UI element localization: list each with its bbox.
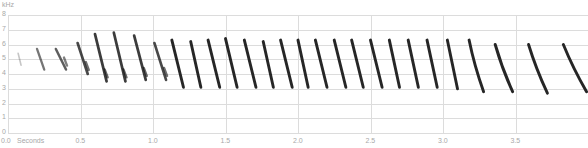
x-tick-label: 1.5 bbox=[221, 137, 231, 145]
note bbox=[469, 40, 484, 92]
note bbox=[172, 40, 184, 87]
note bbox=[427, 40, 437, 87]
note bbox=[298, 40, 308, 87]
x-tick-label: 2.0 bbox=[293, 137, 303, 145]
note bbox=[371, 40, 383, 87]
x-tick-label: 2.5 bbox=[366, 137, 376, 145]
spectrogram-plot bbox=[0, 0, 588, 148]
note bbox=[408, 40, 418, 87]
note bbox=[529, 45, 548, 94]
y-tick-label: 5 bbox=[2, 54, 6, 62]
note bbox=[244, 40, 256, 87]
note bbox=[389, 40, 399, 87]
x-tick-label: 3.0 bbox=[438, 137, 448, 145]
x-tick-label: 3.5 bbox=[511, 137, 521, 145]
note bbox=[495, 45, 512, 92]
note bbox=[281, 40, 293, 87]
y-tick-label: 7 bbox=[2, 25, 6, 33]
x-tick-label: 1.0 bbox=[148, 137, 158, 145]
note bbox=[315, 40, 327, 87]
y-tick-label: 4 bbox=[2, 69, 6, 77]
note bbox=[134, 36, 146, 80]
y-tick-label: 1 bbox=[2, 113, 6, 121]
note bbox=[191, 42, 201, 88]
x-axis-label: Seconds bbox=[17, 137, 44, 145]
spectrogram-chart: kHz Seconds 012345678 0.00.51.01.52.02.5… bbox=[0, 0, 588, 148]
x-tick-label: 0.5 bbox=[76, 137, 86, 145]
y-axis-label: kHz bbox=[2, 1, 14, 9]
note bbox=[334, 40, 346, 87]
y-tick-label: 0 bbox=[2, 128, 6, 136]
y-tick-label: 8 bbox=[2, 10, 6, 18]
note bbox=[563, 45, 586, 92]
y-tick-label: 2 bbox=[2, 99, 6, 107]
note bbox=[263, 42, 273, 88]
note bbox=[78, 43, 88, 74]
y-tick-label: 3 bbox=[2, 84, 6, 92]
x-tick-label: 0.0 bbox=[1, 137, 11, 145]
note bbox=[447, 40, 457, 89]
note bbox=[352, 40, 364, 87]
note bbox=[208, 40, 220, 87]
y-tick-label: 6 bbox=[2, 40, 6, 48]
